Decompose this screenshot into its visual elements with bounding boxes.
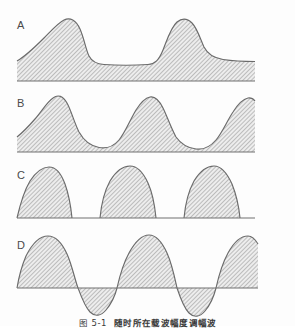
figure-caption-text: 随时所在载波幅度调幅波 <box>114 318 216 328</box>
panel-a-label: A <box>17 20 25 31</box>
figure-caption: 图 5-1随时所在载波幅度调幅波 <box>0 316 295 328</box>
panel-c-fill <box>17 166 240 218</box>
panel-d: D <box>0 228 295 326</box>
panel-c-label: C <box>17 170 25 181</box>
panel-a-fill <box>17 19 255 81</box>
panel-d-waveform <box>0 228 295 326</box>
panel-b: B <box>0 86 295 158</box>
panel-a-waveform <box>0 0 295 86</box>
panel-d-label: D <box>17 240 25 251</box>
figure-caption-number: 图 5-1 <box>79 318 108 328</box>
panel-b-waveform <box>0 86 295 158</box>
panel-d-fill <box>17 235 258 316</box>
panel-c-waveform <box>0 158 295 228</box>
panel-c: C <box>0 158 295 228</box>
panel-a: A <box>0 0 295 86</box>
panel-b-fill <box>17 96 255 152</box>
panel-b-label: B <box>17 98 25 109</box>
